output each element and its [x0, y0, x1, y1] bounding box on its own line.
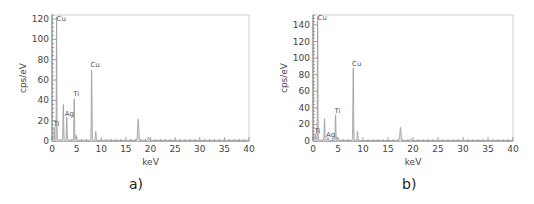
plot-frame	[52, 15, 249, 141]
y-tick-label: 80	[38, 55, 50, 65]
y-tick-label: 0	[304, 136, 310, 146]
peak-label: Cu	[352, 60, 361, 68]
x-axis-title: keV	[405, 157, 422, 167]
peak-label: Ti	[52, 120, 59, 128]
peak-label: Cu	[90, 61, 99, 69]
x-tick-label: 0	[49, 144, 55, 154]
spectrum-line	[52, 17, 249, 140]
y-tick-label: 120	[32, 14, 49, 24]
y-tick-label: 60	[38, 75, 50, 85]
peak-label: Ag	[65, 110, 74, 118]
x-tick-label: 20	[145, 144, 157, 154]
y-axis-title: cps/eV	[18, 62, 28, 93]
x-tick-label: 0	[310, 144, 316, 154]
y-tick-label: 40	[38, 95, 50, 105]
y-tick-label: 40	[299, 103, 311, 113]
peak-label: Ag	[326, 131, 335, 139]
spectrum-area	[313, 17, 513, 141]
x-tick-label: 5	[335, 144, 341, 154]
spectrum-line	[313, 17, 513, 141]
chart-panel-b: 0510152025303540020406080100120140keVcps…	[265, 0, 532, 204]
chart-b-svg: 0510152025303540020406080100120140keVcps…	[265, 0, 534, 204]
spectrum-area	[52, 17, 249, 141]
peak-label: Ti	[334, 107, 341, 115]
peak-label: Ti	[314, 127, 321, 135]
chart-panel-a: 0510152025303540020406080100120keVcps/eV…	[0, 0, 267, 204]
x-tick-label: 20	[407, 144, 419, 154]
x-tick-label: 35	[219, 144, 230, 154]
peak-label: Ti	[72, 90, 79, 98]
y-tick-label: 60	[299, 86, 311, 96]
x-tick-label: 30	[457, 144, 469, 154]
y-tick-label: 140	[293, 20, 310, 30]
y-axis-title: cps/eV	[279, 62, 289, 93]
y-tick-label: 20	[299, 119, 311, 129]
x-tick-label: 40	[507, 144, 519, 154]
peak-label: Cu	[57, 15, 66, 23]
caption-b: b)	[402, 176, 416, 192]
x-tick-label: 25	[432, 144, 443, 154]
x-tick-label: 10	[96, 144, 108, 154]
x-tick-label: 5	[74, 144, 80, 154]
y-tick-label: 100	[293, 53, 310, 63]
caption-a: a)	[129, 176, 143, 192]
y-tick-label: 20	[38, 116, 50, 126]
x-tick-label: 30	[194, 144, 206, 154]
peak-label: Cu	[318, 14, 327, 22]
x-tick-label: 10	[357, 144, 369, 154]
x-tick-label: 25	[169, 144, 180, 154]
x-tick-label: 15	[382, 144, 393, 154]
x-tick-label: 35	[482, 144, 493, 154]
chart-a-svg: 0510152025303540020406080100120keVcps/eV…	[0, 0, 267, 204]
x-tick-label: 15	[120, 144, 131, 154]
y-tick-label: 120	[293, 37, 310, 47]
plot-frame	[313, 15, 513, 141]
y-tick-label: 80	[299, 70, 311, 80]
y-tick-label: 0	[43, 136, 49, 146]
y-tick-label: 100	[32, 34, 49, 44]
x-tick-label: 40	[243, 144, 255, 154]
x-axis-title: keV	[142, 157, 159, 167]
